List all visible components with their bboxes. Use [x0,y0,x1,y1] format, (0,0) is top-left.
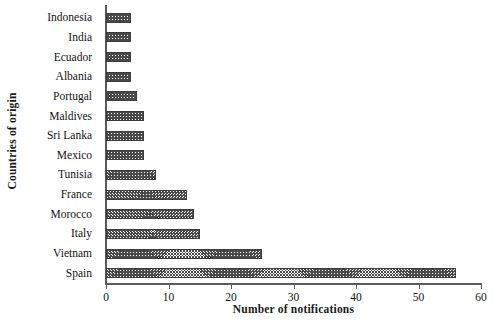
category-label: Morocco [0,208,92,220]
x-axis-tick-label: 10 [149,291,189,303]
bar [106,229,200,239]
bar [106,150,144,160]
x-axis-title: Number of notifications [106,303,481,315]
plot-area: 0102030405060 [106,8,481,283]
bar [106,111,144,121]
x-axis-tick [106,284,107,289]
category-label: Ecuador [0,51,92,63]
x-axis-tick [169,284,170,289]
x-axis-tick [231,284,232,289]
x-axis-tick-label: 0 [86,291,126,303]
x-axis-tick-label: 20 [211,291,251,303]
category-label: Sri Lanka [0,129,92,141]
bar [106,72,131,82]
category-label: Spain [0,267,92,279]
bar [106,32,131,42]
category-label: Maldives [0,110,92,122]
category-label: Portugal [0,90,92,102]
bar [106,170,156,180]
y-axis-line [105,5,107,284]
x-axis-tick [356,284,357,289]
bar [106,190,187,200]
category-label: Mexico [0,149,92,161]
category-label: France [0,188,92,200]
bar [106,209,194,219]
category-label-list: Indonesia India Ecuador Albania Portugal… [0,8,98,283]
x-axis-tick-label: 60 [461,291,496,303]
bar [106,268,456,278]
x-axis-tick [481,284,482,289]
category-label: Albania [0,70,92,82]
bar [106,13,131,23]
x-axis-tick [419,284,420,289]
bar [106,131,144,141]
category-label: Vietnam [0,247,92,259]
category-label: Tunisia [0,168,92,180]
x-axis-tick-label: 40 [336,291,376,303]
bar [106,52,131,62]
x-axis-tick-label: 30 [274,291,314,303]
bar [106,249,262,259]
x-axis-tick-label: 50 [399,291,439,303]
category-label: Italy [0,227,92,239]
bar [106,91,137,101]
bar-chart: Countries of origin Indonesia India Ecua… [0,0,496,331]
x-axis-tick [294,284,295,289]
category-label: India [0,31,92,43]
category-label: Indonesia [0,11,92,23]
